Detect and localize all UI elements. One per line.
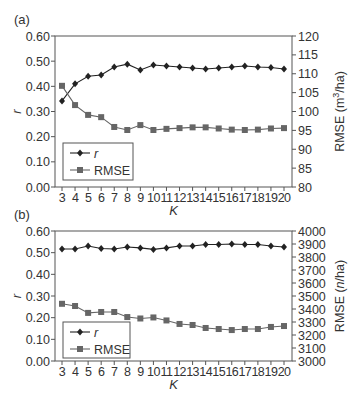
y-tick-label: 0.40 — [26, 80, 50, 94]
x-tick-label: 16 — [225, 365, 238, 379]
legend-label: RMSE — [94, 343, 130, 357]
data-point-rmse — [98, 309, 104, 315]
data-point-r — [281, 244, 287, 251]
x-tick-label: 6 — [98, 191, 105, 205]
y2-tick-label: 3000 — [298, 355, 326, 369]
x-tick-label: 17 — [238, 365, 251, 379]
data-point-r — [98, 72, 104, 79]
x-tick-label: 19 — [265, 191, 278, 205]
data-point-rmse — [268, 324, 274, 330]
x-tick-label: 20 — [278, 365, 291, 379]
data-point-r — [124, 61, 130, 68]
y2-tick-label: 95 — [298, 124, 312, 138]
x-tick-label: 15 — [212, 191, 225, 205]
data-point-rmse — [242, 127, 248, 133]
y-tick-label: 0.60 — [26, 225, 50, 239]
x-tick-label: 4 — [72, 365, 79, 379]
x-axis-label: K — [169, 203, 179, 218]
panel-label: (a) — [14, 12, 30, 27]
data-point-rmse — [59, 301, 65, 307]
y2-tick-label: 85 — [298, 162, 312, 176]
y2-tick-label: 105 — [298, 86, 319, 100]
x-tick-label: 6 — [98, 365, 105, 379]
y2-tick-label: 3300 — [298, 316, 326, 330]
panel-b: (b)0.000.100.200.300.400.500.60300031003… — [9, 207, 347, 392]
data-point-r — [190, 64, 196, 71]
x-tick-label: 14 — [199, 191, 212, 205]
data-point-rmse — [72, 102, 78, 108]
data-point-rmse — [85, 310, 91, 316]
data-point-r — [268, 64, 274, 71]
x-tick-label: 20 — [278, 191, 291, 205]
y2-tick-label: 3600 — [298, 277, 326, 291]
data-point-rmse — [111, 309, 117, 315]
y-tick-label: 0.30 — [26, 290, 50, 304]
data-point-rmse — [163, 126, 169, 132]
x-axis-label: K — [169, 377, 179, 392]
x-tick-label: 7 — [111, 365, 118, 379]
data-point-r — [111, 245, 117, 252]
y2-tick-label: 3400 — [298, 303, 326, 317]
legend: rRMSE — [63, 143, 133, 180]
x-tick-label: 10 — [147, 365, 160, 379]
data-point-r — [59, 245, 65, 252]
data-point-r — [203, 65, 209, 72]
y2-axis-label: RMSE (n/ha) — [333, 260, 347, 332]
series-line-r — [62, 64, 284, 101]
data-point-r — [177, 242, 183, 249]
data-point-r — [137, 66, 143, 73]
data-point-r — [72, 245, 78, 252]
y2-tick-label: 3200 — [298, 329, 326, 343]
data-point-r — [163, 62, 169, 69]
data-point-r — [150, 246, 156, 253]
x-tick-label: 5 — [85, 365, 92, 379]
x-tick-label: 16 — [225, 191, 238, 205]
y-axis-label: r — [9, 293, 24, 298]
y2-tick-label: 3900 — [298, 238, 326, 252]
data-point-rmse — [177, 125, 183, 131]
data-point-rmse — [163, 317, 169, 323]
data-point-r — [137, 244, 143, 251]
data-point-r — [203, 241, 209, 248]
data-point-r — [268, 242, 274, 249]
x-tick-label: 17 — [238, 191, 251, 205]
data-point-r — [229, 63, 235, 70]
data-point-r — [150, 61, 156, 68]
x-tick-label: 3 — [59, 365, 66, 379]
data-point-rmse — [137, 315, 143, 321]
data-point-r — [163, 244, 169, 251]
data-point-rmse — [190, 124, 196, 130]
y-tick-label: 0.10 — [26, 333, 50, 347]
y2-tick-label: 3500 — [298, 290, 326, 304]
series-line-rmse — [62, 86, 284, 130]
y-tick-label: 0.60 — [26, 30, 50, 44]
x-tick-label: 18 — [252, 365, 265, 379]
data-point-r — [281, 65, 287, 72]
x-tick-label: 5 — [85, 191, 92, 205]
y2-tick-label: 110 — [298, 67, 318, 81]
data-point-rmse — [177, 321, 183, 327]
figure: (a)0.000.100.200.300.400.500.60808590951… — [0, 0, 354, 403]
data-point-r — [255, 63, 261, 70]
data-point-rmse — [190, 322, 196, 328]
y2-tick-label: 3800 — [298, 251, 326, 265]
data-point-r — [242, 241, 248, 248]
y-tick-label: 0.20 — [26, 130, 50, 144]
x-tick-label: 4 — [72, 191, 79, 205]
data-point-r — [98, 245, 104, 252]
y2-tick-label: 90 — [298, 143, 312, 157]
data-point-rmse — [216, 326, 222, 332]
panel-label: (b) — [14, 207, 30, 222]
data-point-rmse — [85, 112, 91, 118]
y2-tick-label: 3100 — [298, 342, 326, 356]
y2-tick-label: 4000 — [298, 225, 326, 239]
data-point-rmse — [255, 326, 261, 332]
data-point-rmse — [72, 303, 78, 309]
x-tick-label: 13 — [186, 365, 199, 379]
legend: rRMSE — [63, 322, 130, 358]
series-line-r — [62, 244, 284, 249]
data-point-r — [242, 62, 248, 69]
data-point-rmse — [281, 125, 287, 131]
data-point-rmse — [216, 125, 222, 131]
data-point-rmse — [59, 83, 65, 89]
